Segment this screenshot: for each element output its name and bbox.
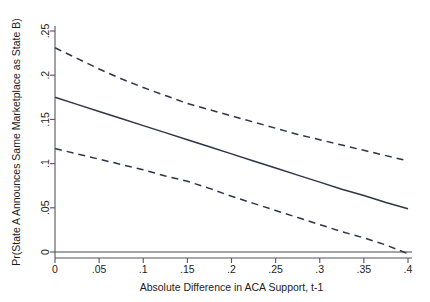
lower-confidence-band-line [55, 149, 408, 254]
predicted-probability-chart: 0.05.1.15.2.25 0.05.1.15.2.25.3.35.4 Abs… [0, 0, 430, 302]
y-tick-label: .1 [39, 159, 51, 168]
y-axis: 0.05.1.15.2.25 [39, 24, 55, 258]
plot-area [55, 48, 412, 254]
y-tick-label: .15 [39, 112, 51, 127]
x-tick-label: .1 [139, 263, 148, 275]
x-tick-label: 0 [52, 263, 58, 275]
y-tick-label: 0 [39, 249, 51, 255]
x-tick-label: .35 [357, 263, 372, 275]
x-tick-label: .3 [315, 263, 324, 275]
x-axis: 0.05.1.15.2.25.3.35.4 [52, 258, 412, 275]
x-tick-label: .05 [92, 263, 107, 275]
predicted-probability-line [55, 97, 408, 208]
y-tick-label: .25 [39, 24, 51, 39]
y-axis-title: Pr(State A Announces Same Marketplace as… [10, 18, 22, 265]
figure-container: 0.05.1.15.2.25 0.05.1.15.2.25.3.35.4 Abs… [0, 0, 430, 302]
x-tick-label: .4 [404, 263, 413, 275]
x-tick-label: .25 [268, 263, 283, 275]
upper-confidence-band-line [55, 48, 408, 161]
x-tick-label: .15 [180, 263, 195, 275]
x-axis-ticks: 0.05.1.15.2.25.3.35.4 [52, 258, 412, 275]
y-tick-label: .05 [39, 200, 51, 215]
y-axis-ticks: 0.05.1.15.2.25 [39, 24, 55, 255]
x-axis-title: Absolute Difference in ACA Support, t-1 [140, 281, 324, 293]
y-tick-label: .2 [39, 71, 51, 80]
x-tick-label: .2 [227, 263, 236, 275]
